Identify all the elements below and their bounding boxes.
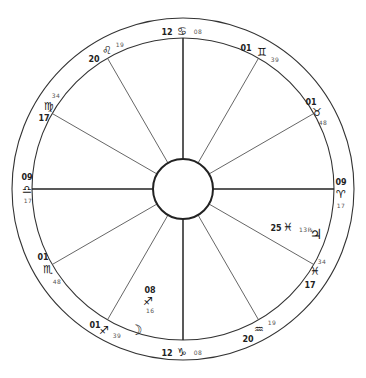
cusp-degree: 01 [37, 253, 49, 262]
cusp-degree: 12 [161, 28, 172, 37]
cusp-degree: 01 [240, 44, 252, 53]
taurus-icon: ♉ [312, 106, 322, 119]
planet-moon: ☽ [130, 322, 143, 338]
cusp-label-house-11: 01♊39 [240, 44, 279, 63]
house-cusp-line-11 [198, 58, 259, 163]
house-cusp-line-8 [52, 114, 157, 175]
pisces-icon: ♓ [310, 265, 320, 278]
cusp-label-house-8: 17♍34 [38, 92, 60, 123]
house-cusp-line-12 [209, 114, 314, 175]
planet-labels: 25♓13℞♃☽08♐16 [130, 221, 323, 338]
aries-icon: ♈ [336, 188, 346, 201]
cusp-minutes: 39 [113, 332, 122, 339]
cusp-label-house-10: 12♋08 [161, 25, 202, 38]
cusp-minutes: 17 [24, 197, 33, 204]
cusp-degree: 20 [88, 55, 100, 64]
cusp-minutes: 48 [53, 278, 62, 285]
cusp-minutes: 19 [116, 41, 125, 48]
aquarius-icon: ♒ [254, 323, 264, 336]
cusp-degree: 17 [38, 114, 49, 123]
cusp-degree: 09 [21, 173, 33, 182]
cusp-degree: 20 [242, 335, 254, 344]
center-hub [153, 159, 213, 219]
planet-moon-degree: 08♐16 [143, 286, 156, 314]
planet-degree: 25 [270, 224, 282, 233]
capricorn-icon: ♑ [177, 346, 187, 359]
planet-sign-icon: ♓ [283, 221, 293, 234]
leo-icon: ♌ [102, 44, 112, 57]
cusp-minutes: 08 [194, 28, 203, 35]
cusp-degree: 09 [335, 178, 347, 187]
scorpio-icon: ♏ [43, 263, 53, 276]
house-cusp-line-6 [52, 204, 157, 265]
virgo-icon: ♍ [44, 100, 54, 113]
planet-minutes: 16 [146, 307, 155, 314]
house-cusp-line-9 [108, 58, 169, 163]
house-cusp-line-2 [209, 204, 314, 265]
cusp-minutes: 08 [194, 349, 203, 356]
cusp-label-house-5: 01♐39 [89, 321, 121, 339]
cusp-minutes: 39 [271, 56, 280, 63]
astrology-chart-wheel: 09♈1717♓3420♒1912♑0801♐3901♏4809♎1717♍34… [0, 0, 366, 378]
cusp-minutes: 34 [318, 258, 327, 265]
cusp-minutes: 48 [319, 119, 328, 126]
house-cusp-line-3 [198, 215, 259, 320]
cusp-label-house-4: 12♑08 [161, 346, 202, 359]
cusp-label-house-6: 01♏48 [37, 253, 61, 285]
sagittarius-icon: ♐ [99, 324, 109, 337]
cusp-minutes: 17 [337, 202, 346, 209]
cusp-label-house-7: 09♎17 [21, 173, 33, 204]
libra-icon: ♎ [22, 183, 32, 196]
cusp-degree: 17 [304, 281, 315, 290]
moon-icon: ☽ [130, 322, 143, 338]
cusp-label-house-12: 01♉48 [305, 98, 327, 126]
cancer-icon: ♋ [177, 25, 187, 38]
cusp-minutes: 34 [52, 92, 61, 99]
cusp-degree: 12 [161, 349, 172, 358]
cusp-label-house-3: 20♒19 [242, 319, 276, 344]
planet-degree: 08 [144, 286, 156, 295]
planet-jupiter: 25♓13℞♃ [270, 221, 322, 242]
cusp-label-house-1: 09♈17 [335, 178, 347, 209]
gemini-icon: ♊ [257, 46, 267, 59]
cusp-minutes: 19 [268, 319, 277, 326]
house-cusp-line-5 [108, 215, 169, 320]
jupiter-icon: ♃ [310, 226, 323, 242]
